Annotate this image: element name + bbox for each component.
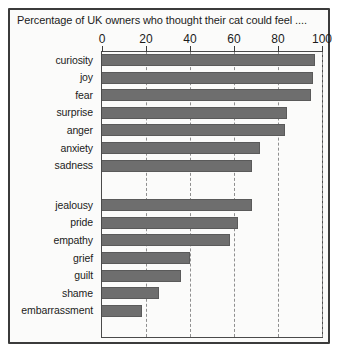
bar-pride [102,217,238,229]
x-tick-label-80: 80 [271,32,284,46]
bar-anger [102,124,285,136]
bar-row [102,252,322,264]
category-label-sadness: sadness [55,159,93,171]
category-axis-labels: curiosityjoyfearsurpriseangeranxietysadn… [10,51,97,338]
category-label-pride: pride [70,216,93,228]
category-label-embarrassment: embarrassment [21,304,93,316]
bar-fear [102,89,311,101]
category-label-curiosity: curiosity [55,54,93,66]
bar-row [102,199,322,211]
bar-row [102,107,322,119]
plot-area [101,51,323,338]
category-label-grief: grief [73,252,93,264]
gridline-100 [322,52,323,337]
x-tick-label-100: 100 [312,32,332,46]
x-tick-label-60: 60 [227,32,240,46]
bar-jealousy [102,199,252,211]
category-label-shame: shame [62,287,93,299]
bar-anxiety [102,142,260,154]
x-tick-label-0: 0 [99,32,106,46]
x-tickmark-100 [322,46,323,52]
bar-guilt [102,270,181,282]
bar-row [102,305,322,317]
x-axis-tick-labels: 020406080100 [10,32,328,48]
bar-grief [102,252,190,264]
category-label-fear: fear [75,89,93,101]
bar-row [102,270,322,282]
bar-empathy [102,234,230,246]
bar-row [102,217,322,229]
bar-surprise [102,107,287,119]
category-label-jealousy: jealousy [55,199,93,211]
bar-row [102,160,322,172]
category-label-surprise: surprise [56,106,93,118]
bar-row [102,234,322,246]
x-tick-label-20: 20 [139,32,152,46]
bar-row [102,124,322,136]
bar-row [102,287,322,299]
bar-embarrassment [102,305,142,317]
bar-row [102,72,322,84]
bar-sadness [102,160,252,172]
bar-curiosity [102,54,315,66]
x-tick-label-40: 40 [183,32,196,46]
category-label-joy: joy [80,71,93,83]
bar-joy [102,72,313,84]
bar-shame [102,287,159,299]
category-label-anger: anger [67,124,93,136]
category-label-anxiety: anxiety [60,142,93,154]
chart-title: Percentage of UK owners who thought thei… [17,14,307,26]
chart-frame: Percentage of UK owners who thought thei… [8,8,330,344]
bar-row [102,54,322,66]
category-label-guilt: guilt [74,269,93,281]
bar-series [102,52,322,337]
bar-row [102,89,322,101]
category-label-empathy: empathy [53,234,93,246]
bar-row [102,142,322,154]
